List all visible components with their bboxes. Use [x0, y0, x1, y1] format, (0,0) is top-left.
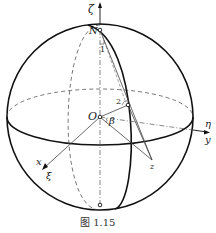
label-zeta: ζ: [88, 3, 95, 16]
label-y: y: [204, 134, 211, 145]
label-north: N: [88, 25, 99, 36]
angle-mark-1: [100, 40, 104, 44]
line-n-z: [100, 30, 152, 160]
dashed-n-2: [101, 32, 126, 103]
label-beta: β: [108, 115, 115, 126]
label-xi: ξ: [46, 170, 52, 181]
label-point1: 1: [100, 45, 105, 54]
point-n: [98, 28, 102, 32]
figure-caption: 图 1.15: [80, 217, 115, 228]
label-point2: 2: [116, 97, 121, 106]
label-origin: O: [88, 110, 97, 123]
point-o: [98, 115, 102, 119]
zeta-arrowhead: [98, 2, 102, 8]
label-z: z: [149, 162, 155, 171]
sphere-diagram: ζ N 1 2 O β η y x ξ z 图 1.15: [0, 0, 216, 233]
label-x: x: [36, 156, 42, 167]
label-eta: η: [205, 118, 211, 129]
xi-axis: [44, 117, 100, 168]
point-s: [98, 203, 102, 207]
xi-arrowhead: [42, 163, 48, 170]
point-2: [126, 103, 130, 107]
